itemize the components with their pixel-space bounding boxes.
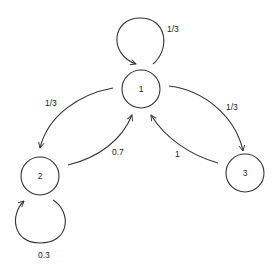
edge-2-to-2: [16, 200, 66, 243]
edge-label-1-to-1: 1/3: [167, 24, 179, 34]
node-2: 2: [21, 157, 59, 195]
edge-2-to-1: [68, 115, 132, 165]
edge-label-1-to-2: 1/3: [45, 98, 57, 108]
node-2-label: 2: [38, 171, 43, 181]
edge-label-2-to-2: 0.3: [38, 250, 50, 260]
edge-1-to-1: [117, 18, 164, 64]
edge-1-to-2: [40, 88, 113, 148]
edge-label-2-to-1: 0.7: [112, 147, 124, 157]
edge-1-to-3: [169, 86, 243, 151]
node-3-label: 3: [243, 168, 248, 178]
node-1: 1: [122, 70, 160, 108]
edge-label-1-to-3: 1/3: [226, 102, 238, 112]
node-3: 3: [226, 154, 264, 192]
edge-label-3-to-1: 1: [175, 149, 180, 159]
state-diagram: 1/3 1/3 1/3 0.7 0.3 1 1 2 3: [0, 0, 277, 270]
node-1-label: 1: [139, 84, 144, 94]
edge-3-to-1: [151, 115, 218, 163]
